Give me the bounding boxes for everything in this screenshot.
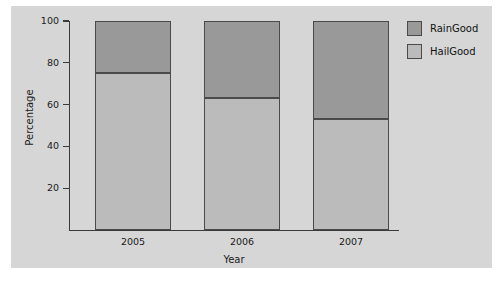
plot-area: 20406080100 Percentage Year 200520062007… [11,6,492,268]
legend-item[interactable]: RainGood [407,20,497,36]
x-axis-category-label: 2006 [202,236,282,247]
chart-panel: 20406080100 Percentage Year 200520062007… [11,6,492,268]
legend-label: RainGood [430,23,478,34]
y-axis-tick-label: 20 [25,183,59,193]
bar-segment-raingood[interactable] [313,21,389,119]
y-axis-title: Percentage [24,78,35,158]
chart-legend: RainGoodHailGood [407,20,497,66]
x-axis-category-label: 2005 [93,236,173,247]
y-axis-tick-label-wrap: 80 [11,58,59,68]
y-axis-tick-label: 100 [25,16,59,26]
x-axis-line [69,230,399,231]
legend-swatch-icon [407,21,422,36]
y-axis-tick [63,146,69,147]
bar-group[interactable] [204,21,280,230]
y-axis-tick [63,20,69,21]
y-axis-tick-label-wrap: 20 [11,183,59,193]
y-axis-tick [63,62,69,63]
bar-segment-raingood[interactable] [95,21,171,73]
y-axis-line [69,21,70,231]
bar-group[interactable] [95,21,171,230]
chart-figure: 20406080100 Percentage Year 200520062007… [0,0,503,281]
y-axis-tick-label-wrap: 100 [11,16,59,26]
legend-item[interactable]: HailGood [407,43,497,59]
legend-label: HailGood [430,46,476,57]
bar-segment-hailgood[interactable] [204,98,280,230]
y-axis-tick-label-wrap: 60 [11,100,59,110]
bar-segment-hailgood[interactable] [95,73,171,230]
legend-swatch-icon [407,44,422,59]
y-axis-tick-label-wrap: 40 [11,141,59,151]
y-axis-tick [63,188,69,189]
y-axis-tick [63,104,69,105]
x-axis-title: Year [69,254,399,265]
bar-segment-raingood[interactable] [204,21,280,98]
bar-segment-hailgood[interactable] [313,119,389,230]
bar-group[interactable] [313,21,389,230]
y-axis-tick-label: 80 [25,58,59,68]
x-axis-category-label: 2007 [311,236,391,247]
